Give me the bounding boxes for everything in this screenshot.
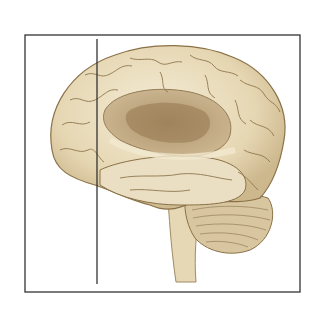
brain-figure	[0, 0, 320, 314]
temporal-lobe	[100, 156, 246, 205]
brain-illustration	[0, 0, 320, 314]
